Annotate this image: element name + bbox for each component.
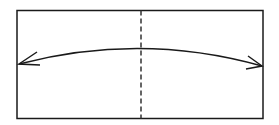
paper-sheet [17, 11, 263, 119]
fold-diagram [0, 0, 279, 125]
